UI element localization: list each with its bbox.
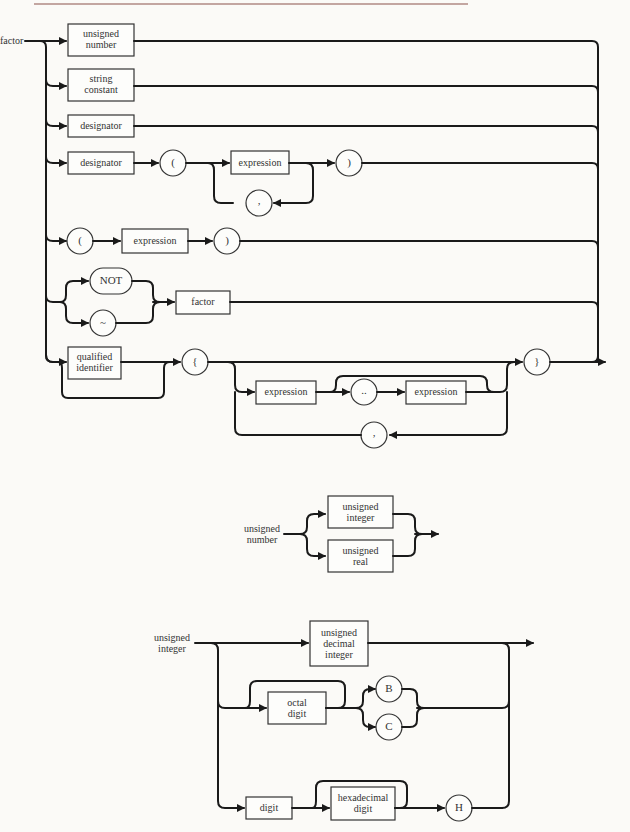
- label-line: constant: [68, 84, 134, 95]
- label-line: integer: [310, 649, 368, 660]
- nonterminal-unsigned-number: unsigned number: [68, 28, 134, 50]
- label-line: number: [240, 534, 284, 545]
- nonterminal-expression: expression: [256, 386, 316, 397]
- terminal-lbrace: {: [182, 355, 208, 367]
- label-line: qualified: [68, 351, 121, 362]
- nonterminal-factor: factor: [176, 296, 230, 307]
- nonterminal-octal-digit: octal digit: [268, 697, 326, 719]
- label-line: number: [68, 39, 134, 50]
- nonterminal-unsigned-integer: unsigned integer: [328, 501, 393, 523]
- label-line: unsigned: [150, 632, 194, 643]
- label-line: octal: [268, 697, 326, 708]
- label-line: unsigned: [68, 28, 134, 39]
- nonterminal-expression: expression: [406, 386, 466, 397]
- label-line: digit: [268, 708, 326, 719]
- nonterminal-designator: designator: [68, 120, 134, 131]
- terminal-b: B: [376, 682, 402, 694]
- terminal-rparen: ): [336, 156, 362, 168]
- terminal-rparen: ): [214, 234, 240, 246]
- terminal-not: NOT: [90, 274, 132, 286]
- terminal-h: H: [446, 801, 472, 813]
- nonterminal-qualified-identifier: qualified identifier: [68, 351, 121, 373]
- terminal-rbrace: }: [524, 355, 550, 367]
- label-line: real: [328, 556, 393, 567]
- terminal-range: ..: [351, 384, 377, 396]
- label-line: unsigned: [240, 523, 284, 534]
- label-line: integer: [328, 512, 393, 523]
- label-line: digit: [331, 803, 395, 814]
- terminal-c: C: [376, 720, 402, 732]
- nonterminal-designator: designator: [68, 157, 134, 168]
- label-line: string: [68, 73, 134, 84]
- label-line: unsigned: [310, 627, 368, 638]
- label-line: hexadecimal: [331, 792, 395, 803]
- nonterminal-expression: expression: [122, 235, 188, 246]
- diagram-name-factor: factor: [0, 35, 23, 46]
- label-line: unsigned: [328, 545, 393, 556]
- nonterminal-unsigned-decimal-integer: unsigned decimal integer: [310, 627, 368, 660]
- terminal-lparen: (: [160, 156, 186, 168]
- label-line: identifier: [68, 362, 121, 373]
- terminal-comma: ,: [246, 194, 272, 206]
- nonterminal-expression: expression: [231, 157, 289, 168]
- label-line: unsigned: [328, 501, 393, 512]
- terminal-comma: ,: [361, 426, 387, 438]
- nonterminal-digit: digit: [246, 802, 292, 813]
- terminal-lparen: (: [67, 234, 93, 246]
- nonterminal-hexadecimal-digit: hexadecimal digit: [331, 792, 395, 814]
- terminal-tilde: ~: [90, 316, 116, 328]
- diagram-name-unsigned-number: unsigned number: [240, 523, 284, 545]
- diagram-name-unsigned-integer: unsigned integer: [150, 632, 194, 654]
- label-line: integer: [150, 643, 194, 654]
- nonterminal-unsigned-real: unsigned real: [328, 545, 393, 567]
- label-line: decimal: [310, 638, 368, 649]
- nonterminal-string-constant: string constant: [68, 73, 134, 95]
